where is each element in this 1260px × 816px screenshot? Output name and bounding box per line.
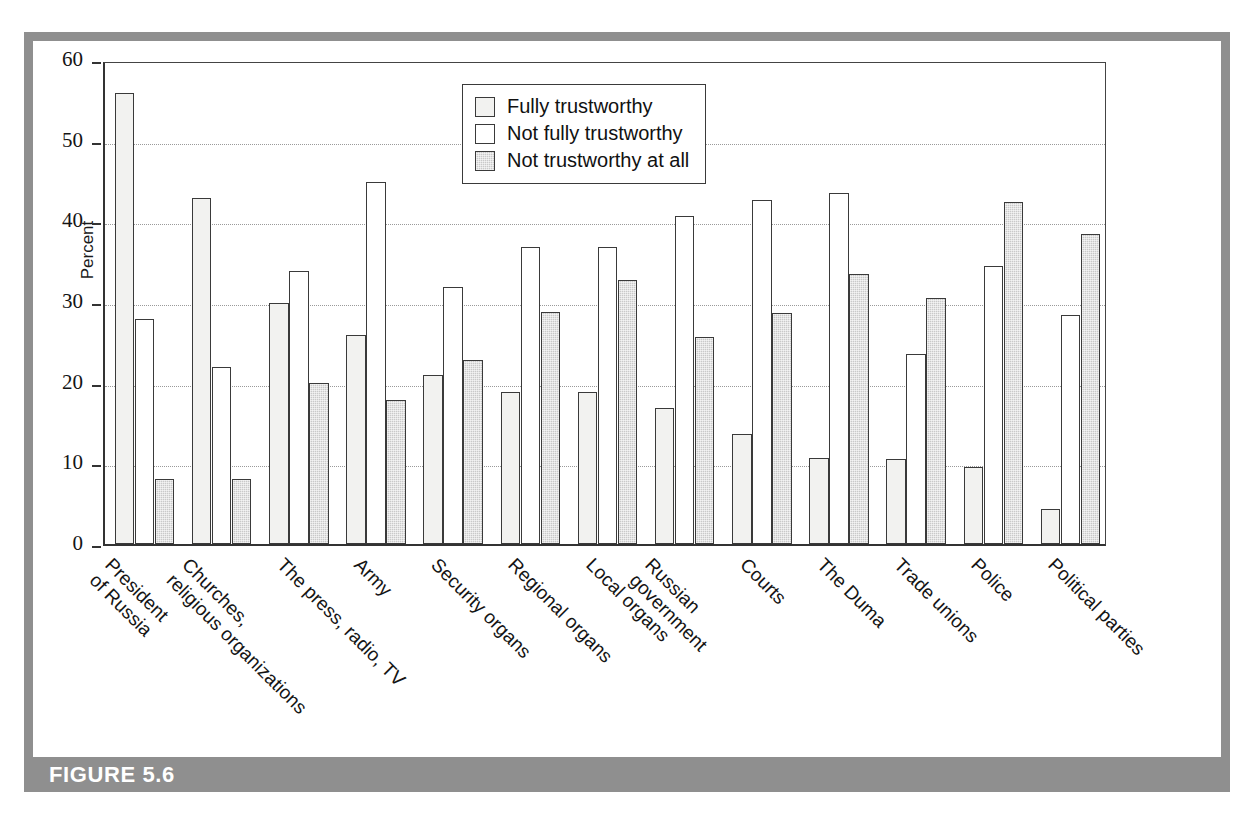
x-axis-label: Police: [966, 554, 1018, 606]
legend-item: Fully trustworthy: [475, 93, 689, 120]
bar: [695, 337, 715, 544]
legend-item-label: Not trustworthy at all: [507, 149, 689, 172]
bar: [155, 479, 175, 544]
bar: [366, 182, 386, 544]
y-tick-mark: [92, 62, 101, 64]
bar: [541, 312, 561, 544]
bar: [1061, 315, 1081, 544]
bar: [1081, 234, 1101, 544]
bar: [269, 303, 289, 544]
legend-swatch-icon: [475, 97, 495, 117]
legend-item: Not trustworthy at all: [475, 147, 689, 174]
figure-root: Percent 0102030405060 Fully trustworthyN…: [0, 0, 1260, 816]
bar: [521, 247, 541, 544]
bar: [752, 200, 772, 544]
x-axis-labels: Presidentof RussiaChurches,religious org…: [103, 548, 1106, 748]
y-tick-mark: [92, 223, 101, 225]
bar: [463, 360, 483, 544]
bar: [964, 467, 984, 544]
y-tick-mark: [92, 385, 101, 387]
bar: [886, 459, 906, 545]
bar: [772, 313, 792, 544]
x-axis-label: Courts: [735, 554, 790, 609]
bar: [232, 479, 252, 544]
bar: [655, 408, 675, 544]
y-tick-mark: [92, 304, 101, 306]
bar: [423, 375, 443, 544]
y-tick-mark: [92, 465, 101, 467]
chart-legend: Fully trustworthyNot fully trustworthyNo…: [462, 84, 706, 184]
bar: [346, 335, 366, 544]
bar: [849, 274, 869, 544]
bar: [578, 392, 598, 544]
bar: [115, 93, 135, 544]
bar: [135, 319, 155, 544]
bar: [984, 266, 1004, 544]
bar: [192, 198, 212, 544]
legend-item-label: Fully trustworthy: [507, 95, 653, 118]
x-axis-label: The Duma: [812, 554, 891, 633]
bar: [618, 280, 638, 544]
y-tick-label: 20: [35, 370, 83, 395]
legend-swatch-icon: [475, 124, 495, 144]
bar: [501, 392, 521, 544]
figure-caption-band: FIGURE 5.6: [33, 757, 1221, 791]
y-tick-label: 0: [35, 531, 83, 556]
y-tick-label: 30: [35, 289, 83, 314]
y-tick-label: 50: [35, 128, 83, 153]
figure-caption-label: FIGURE 5.6: [49, 762, 175, 788]
bar: [289, 271, 309, 544]
x-axis-label: Army: [349, 554, 396, 601]
bar: [906, 354, 926, 544]
y-tick-label: 10: [35, 450, 83, 475]
bar: [386, 400, 406, 544]
bar: [809, 458, 829, 544]
y-tick-mark: [92, 546, 101, 548]
legend-item: Not fully trustworthy: [475, 120, 689, 147]
legend-swatch-icon: [475, 151, 495, 171]
bar: [598, 247, 618, 544]
bar: [212, 367, 232, 544]
bar: [675, 216, 695, 544]
bar: [926, 298, 946, 544]
y-tick-label: 60: [35, 47, 83, 72]
bar: [1004, 202, 1024, 544]
y-tick-mark: [92, 143, 101, 145]
bar: [732, 434, 752, 545]
bar: [309, 383, 329, 544]
legend-item-label: Not fully trustworthy: [507, 122, 683, 145]
bar: [443, 287, 463, 544]
bar: [1041, 509, 1061, 544]
bar: [829, 193, 849, 544]
y-tick-label: 40: [35, 208, 83, 233]
